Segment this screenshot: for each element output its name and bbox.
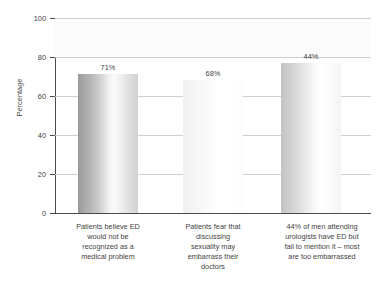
category-label-3-line-1: 44% of men attending [263, 222, 381, 232]
y-tick-label-100: 100 [16, 15, 46, 22]
bar-value-label-1: 71% [78, 64, 138, 71]
category-label-3-line-2: urologists have ED but [263, 232, 381, 242]
plot-area [55, 18, 371, 213]
category-label-3: 44% of men attending urologists have ED … [263, 222, 381, 262]
plot-top-tint-band [55, 18, 371, 57]
bar-1[interactable] [78, 74, 138, 213]
y-tick-label-80: 80 [16, 54, 46, 61]
category-label-1-line-2: would not be [58, 232, 158, 242]
category-label-2-line-2: discussing [165, 232, 261, 242]
y-tick-label-20: 20 [16, 171, 46, 178]
category-label-1-line-1: Patients believe ED [58, 222, 158, 232]
bar-value-label-3: 44% [281, 53, 341, 60]
bar-3[interactable] [281, 63, 341, 213]
category-label-2-line-1: Patients fear that [165, 222, 261, 232]
category-label-1-line-3: recognized as a [58, 242, 158, 252]
category-label-2-line-3: sexuality may [165, 242, 261, 252]
y-tick-label-40: 40 [16, 132, 46, 139]
category-label-2: Patients fear that discussing sexuality … [165, 222, 261, 272]
x-axis-baseline [55, 213, 371, 214]
y-tick-label-0: 0 [16, 210, 46, 217]
y-tick-label-60: 60 [16, 93, 46, 100]
bar-value-label-2: 68% [183, 70, 243, 77]
category-label-1-line-4: medical problem [58, 252, 158, 262]
category-label-3-line-4: are too embarrassed [263, 252, 381, 262]
gridline-100 [55, 18, 371, 19]
category-label-2-line-4: embarrass their [165, 252, 261, 262]
category-label-2-line-5: doctors [165, 262, 261, 272]
bar-chart: Percentage 100 80 60 40 20 0 71% 68% 44%… [0, 0, 388, 289]
bar-2[interactable] [183, 80, 243, 213]
category-label-3-line-3: fail to mention it – most [263, 242, 381, 252]
category-label-1: Patients believe ED would not be recogni… [58, 222, 158, 262]
